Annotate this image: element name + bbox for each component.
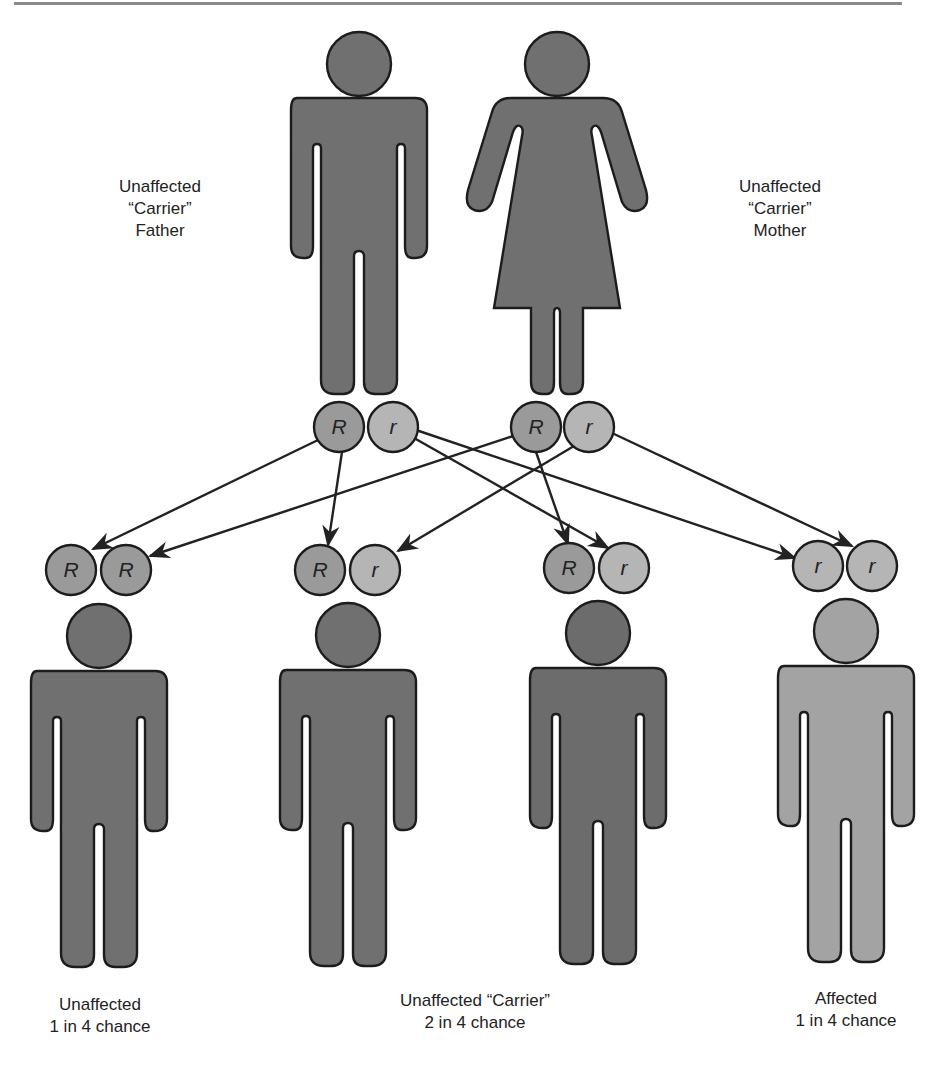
arrow-mother-r-to-child4 xyxy=(612,433,852,546)
arrow-father-r-to-child3 xyxy=(414,438,608,548)
child-1-alleles: R R xyxy=(46,545,151,595)
arrow-mother-r-to-child2 xyxy=(398,446,574,551)
father-alleles: R r xyxy=(314,402,418,452)
inheritance-diagram: R r R r R R R r R r r xyxy=(0,0,948,1068)
allele-label: R xyxy=(561,556,576,579)
outcome-label-unaffected: Unaffected 1 in 4 chance xyxy=(10,994,190,1038)
mother-alleles: R r xyxy=(511,402,614,452)
label-line: Affected xyxy=(756,988,936,1010)
allele-label: r xyxy=(390,415,398,438)
outcome-label-carrier: Unaffected “Carrier” 2 in 4 chance xyxy=(360,990,590,1034)
label-line: Unaffected xyxy=(10,994,190,1016)
allele-label: R xyxy=(63,558,78,581)
father-head xyxy=(327,32,391,96)
allele-circle: r xyxy=(368,402,418,452)
allele-label: r xyxy=(621,556,629,579)
allele-circle: R xyxy=(314,402,364,452)
child-2-alleles: R r xyxy=(295,545,400,595)
label-line: Unaffected “Carrier” xyxy=(360,990,590,1012)
child-head xyxy=(316,603,380,667)
mother-label: Unaffected “Carrier” Mother xyxy=(690,176,870,242)
allele-label: r xyxy=(869,554,877,577)
child-head xyxy=(814,599,878,663)
allele-label: R xyxy=(528,415,543,438)
allele-label: r xyxy=(372,558,380,581)
child-4-figure-affected xyxy=(778,599,914,962)
label-line: 2 in 4 chance xyxy=(360,1012,590,1034)
child-4-alleles: r r xyxy=(793,541,897,591)
label-line: Unaffected xyxy=(70,176,250,198)
arrow-father-R-to-child1 xyxy=(93,440,318,549)
label-line: Unaffected xyxy=(690,176,870,198)
child-1-figure xyxy=(31,604,167,967)
child-3-figure xyxy=(530,601,666,964)
allele-label: R xyxy=(312,558,327,581)
label-line: 1 in 4 chance xyxy=(10,1016,190,1038)
label-line: 1 in 4 chance xyxy=(756,1010,936,1032)
label-line: Father xyxy=(70,220,250,242)
allele-label: r xyxy=(815,554,823,577)
child-head xyxy=(67,604,131,668)
inheritance-arrows xyxy=(93,430,852,558)
mother-figure xyxy=(467,32,647,394)
label-line: Mother xyxy=(690,220,870,242)
label-line: “Carrier” xyxy=(70,198,250,220)
allele-label: R xyxy=(331,415,346,438)
allele-circle: r xyxy=(564,402,614,452)
outcome-label-affected: Affected 1 in 4 chance xyxy=(756,988,936,1032)
label-line: “Carrier” xyxy=(690,198,870,220)
allele-label: r xyxy=(586,415,594,438)
allele-label: R xyxy=(118,558,133,581)
child-2-figure xyxy=(280,603,416,966)
father-figure xyxy=(291,32,427,394)
child-3-alleles: R r xyxy=(544,543,649,593)
allele-circle: R xyxy=(511,402,561,452)
father-label: Unaffected “Carrier” Father xyxy=(70,176,250,242)
mother-head xyxy=(525,32,589,96)
mother-body xyxy=(467,98,647,394)
arrow-father-R-to-child2 xyxy=(328,452,342,545)
child-head xyxy=(566,601,630,665)
